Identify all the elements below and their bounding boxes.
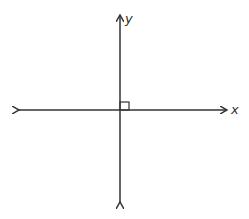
right-angle-marker: [120, 102, 129, 110]
axes-diagram: y x: [0, 0, 249, 219]
y-axis-label: y: [124, 11, 133, 26]
x-axis-label: x: [230, 102, 239, 117]
